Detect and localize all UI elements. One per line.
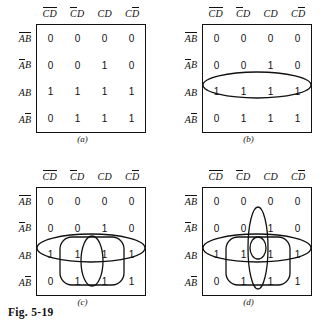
row-header-1: AB bbox=[168, 214, 200, 241]
map-row: 0111 bbox=[203, 268, 311, 295]
overbar-literal: A bbox=[185, 59, 191, 71]
row-header-column: ABABABAB bbox=[168, 187, 200, 296]
column-header-1: CD bbox=[64, 4, 92, 22]
overbar-literal: A bbox=[19, 222, 25, 234]
map-cell-r0-c3: 0 bbox=[118, 25, 145, 52]
row-header-1: AB bbox=[2, 51, 34, 78]
literal: D bbox=[243, 8, 250, 19]
map-cell-r1-c0: 0 bbox=[203, 52, 230, 79]
map-cell-r3-c0: 0 bbox=[37, 105, 64, 132]
literal: D bbox=[77, 171, 84, 182]
map-grid: 0000001011110111 bbox=[202, 187, 312, 296]
map-cell-r3-c3: 1 bbox=[118, 105, 145, 132]
map-cell-r3-c0: 0 bbox=[203, 105, 230, 132]
overbar-literal: D bbox=[215, 170, 222, 182]
map-cell-r1-c0: 0 bbox=[37, 215, 64, 242]
map-cell-r0-c0: 0 bbox=[203, 188, 230, 215]
literal: D bbox=[243, 171, 250, 182]
map-cell-r1-c1: 0 bbox=[230, 215, 257, 242]
overbar-literal: B bbox=[25, 113, 31, 125]
map-cell-r0-c3: 0 bbox=[284, 25, 311, 52]
map-cell-r0-c0: 0 bbox=[37, 25, 64, 52]
map-cell-r3-c0: 0 bbox=[37, 268, 64, 295]
column-header-0: CD bbox=[202, 4, 230, 22]
map-cell-r0-c1: 0 bbox=[64, 25, 91, 52]
map-cell-r3-c1: 1 bbox=[64, 268, 91, 295]
literal: B bbox=[191, 222, 197, 233]
map-cell-r0-c3: 0 bbox=[118, 188, 145, 215]
literal: D bbox=[270, 171, 277, 182]
map-cell-r3-c2: 1 bbox=[257, 105, 284, 132]
literal: D bbox=[104, 8, 111, 19]
map-cell-r3-c0: 0 bbox=[203, 268, 230, 295]
literal: B bbox=[191, 87, 197, 98]
map-cell-r1-c1: 0 bbox=[64, 52, 91, 79]
literal: B bbox=[25, 87, 31, 98]
map-cell-r2-c3: 1 bbox=[284, 79, 311, 106]
map-cell-r3-c2: 1 bbox=[91, 105, 118, 132]
overbar-literal: C bbox=[236, 7, 243, 19]
column-header-3: CD bbox=[285, 4, 313, 22]
map-cell-r2-c2: 1 bbox=[91, 79, 118, 106]
literal: B bbox=[191, 250, 197, 261]
column-header-2: CD bbox=[91, 167, 119, 185]
map-cell-r2-c1: 1 bbox=[64, 79, 91, 106]
overbar-literal: B bbox=[191, 195, 197, 207]
map-row: 0000 bbox=[37, 188, 145, 215]
literal: D bbox=[270, 8, 277, 19]
row-header-0: AB bbox=[2, 24, 34, 51]
overbar-literal: D bbox=[132, 7, 139, 19]
map-grid: 0000001011110111 bbox=[36, 24, 146, 133]
map-row: 0111 bbox=[203, 105, 311, 132]
map-cell-r0-c1: 0 bbox=[64, 188, 91, 215]
map-cell-r2-c0: 1 bbox=[203, 242, 230, 269]
map-cell-r3-c1: 1 bbox=[230, 268, 257, 295]
map-row: 0010 bbox=[37, 215, 145, 242]
overbar-literal: B bbox=[191, 276, 197, 288]
overbar-literal: B bbox=[191, 113, 197, 125]
literal: D bbox=[77, 8, 84, 19]
map-cell-r1-c2: 1 bbox=[257, 215, 284, 242]
map-cell-r1-c3: 0 bbox=[118, 52, 145, 79]
map-row: 1111 bbox=[37, 242, 145, 269]
panel-label-a: (a) bbox=[0, 134, 165, 144]
row-header-column: ABABABAB bbox=[168, 24, 200, 133]
row-header-0: AB bbox=[2, 187, 34, 214]
column-header-3: CD bbox=[285, 167, 313, 185]
overbar-literal: D bbox=[49, 7, 56, 19]
karnaugh-map-panel-c: CDCDCDCDABABABAB0000001011110111(c) bbox=[0, 163, 165, 326]
karnaugh-map-panel-b: CDCDCDCDABABABAB0000001011110111(b) bbox=[166, 0, 331, 163]
overbar-literal: D bbox=[298, 170, 305, 182]
panel-label-d: (d) bbox=[166, 297, 331, 307]
map-cell-r2-c1: 1 bbox=[64, 242, 91, 269]
overbar-literal: B bbox=[25, 276, 31, 288]
overbar-literal: A bbox=[185, 222, 191, 234]
literal: D bbox=[104, 171, 111, 182]
column-header-2: CD bbox=[257, 4, 285, 22]
column-header-1: CD bbox=[230, 4, 258, 22]
map-row: 0010 bbox=[37, 52, 145, 79]
karnaugh-map-panel-d: CDCDCDCDABABABAB0000001011110111(d) bbox=[166, 163, 331, 326]
column-header-0: CD bbox=[202, 167, 230, 185]
map-row: 0010 bbox=[203, 52, 311, 79]
map-cell-r3-c1: 1 bbox=[64, 105, 91, 132]
map-row: 0000 bbox=[203, 188, 311, 215]
row-header-2: AB bbox=[2, 79, 34, 106]
panel-label-b: (b) bbox=[166, 134, 331, 144]
column-header-3: CD bbox=[119, 4, 147, 22]
row-header-3: AB bbox=[168, 106, 200, 133]
map-row: 1111 bbox=[203, 242, 311, 269]
map-cell-r0-c1: 0 bbox=[230, 188, 257, 215]
map-cell-r1-c1: 0 bbox=[64, 215, 91, 242]
map-cell-r2-c2: 1 bbox=[257, 242, 284, 269]
row-header-column: ABABABAB bbox=[2, 24, 34, 133]
map-cell-r0-c0: 0 bbox=[37, 188, 64, 215]
literal: B bbox=[191, 59, 197, 70]
map-cell-r2-c2: 1 bbox=[91, 242, 118, 269]
map-cell-r2-c2: 1 bbox=[257, 79, 284, 106]
literal: C bbox=[125, 171, 132, 182]
map-row: 1111 bbox=[37, 79, 145, 106]
row-header-column: ABABABAB bbox=[2, 187, 34, 296]
map-cell-r2-c1: 1 bbox=[230, 242, 257, 269]
map-cell-r1-c0: 0 bbox=[37, 52, 64, 79]
